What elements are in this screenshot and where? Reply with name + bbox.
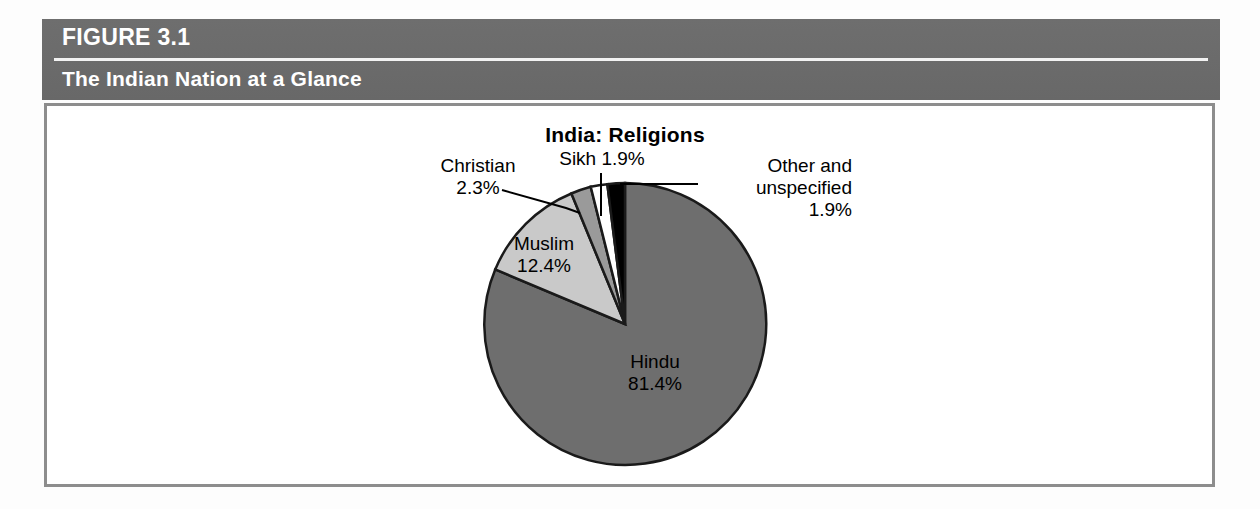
figure-number-label: FIGURE 3.1 [62,24,190,51]
figure-root: FIGURE 3.1 The Indian Nation at a Glance [0,0,1260,509]
figure-title: The Indian Nation at a Glance [62,67,362,91]
figure-header-band: FIGURE 3.1 The Indian Nation at a Glance [42,19,1220,100]
figure-body-panel [44,103,1215,487]
header-divider-rule [54,58,1208,61]
